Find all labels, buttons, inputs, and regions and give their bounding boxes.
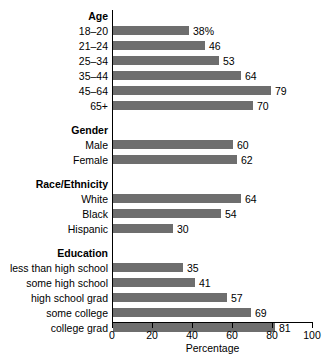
group-header-label: Age bbox=[0, 10, 108, 22]
bar-row: Hispanic30 bbox=[0, 223, 331, 238]
bar bbox=[113, 209, 221, 218]
bar-row: White64 bbox=[0, 193, 331, 208]
x-axis-tick-label: 100 bbox=[292, 329, 331, 342]
bar bbox=[113, 293, 227, 302]
bar-category-label: Female bbox=[0, 154, 108, 166]
bar-row: 45–6479 bbox=[0, 85, 331, 100]
group-header-label: Race/Ethnicity bbox=[0, 178, 108, 190]
x-axis-tick-mark bbox=[112, 323, 113, 328]
x-axis-tick-mark bbox=[232, 323, 233, 328]
bar-row: Male60 bbox=[0, 139, 331, 154]
bar-category-label: less than high school bbox=[0, 262, 108, 274]
bar-category-label: Male bbox=[0, 139, 108, 151]
bar-value-label: 30 bbox=[177, 223, 189, 235]
x-axis-tick-label: 80 bbox=[252, 329, 292, 342]
bar bbox=[113, 101, 253, 110]
bar bbox=[113, 140, 233, 149]
bar-value-label: 64 bbox=[245, 70, 257, 82]
bar-chart: Age18–2038%21–244625–345335–446445–64796… bbox=[0, 0, 331, 358]
x-axis-tick-label: 60 bbox=[212, 329, 252, 342]
bar-category-label: Black bbox=[0, 208, 108, 220]
group-header-label: Gender bbox=[0, 124, 108, 136]
bar-value-label: 60 bbox=[237, 139, 249, 151]
group-header-row: Age bbox=[0, 10, 331, 25]
bar bbox=[113, 224, 173, 233]
plot-area: Age18–2038%21–244625–345335–446445–64796… bbox=[0, 0, 331, 358]
group-header-row: Education bbox=[0, 247, 331, 262]
x-axis-tick-mark bbox=[192, 323, 193, 328]
bar-row: some high school41 bbox=[0, 277, 331, 292]
bar bbox=[113, 56, 219, 65]
bar-row: 65+70 bbox=[0, 100, 331, 115]
bar-category-label: 45–64 bbox=[0, 85, 108, 97]
group-header-row: Race/Ethnicity bbox=[0, 178, 331, 193]
bar-row: some college69 bbox=[0, 307, 331, 322]
bar-category-label: White bbox=[0, 193, 108, 205]
bar-value-label: 35 bbox=[187, 262, 199, 274]
bar-row: 21–2446 bbox=[0, 40, 331, 55]
bar-value-label: 54 bbox=[225, 208, 237, 220]
bar-value-label: 62 bbox=[241, 154, 253, 166]
bar-row: Female62 bbox=[0, 154, 331, 169]
bar-row: less than high school35 bbox=[0, 262, 331, 277]
bar bbox=[113, 86, 271, 95]
bar bbox=[113, 278, 195, 287]
bar bbox=[113, 263, 183, 272]
bar-value-label: 69 bbox=[255, 307, 267, 319]
bar-value-label: 38% bbox=[193, 25, 214, 37]
bar bbox=[113, 194, 241, 203]
bar bbox=[113, 41, 205, 50]
bar bbox=[113, 26, 189, 35]
bar-value-label: 46 bbox=[209, 40, 221, 52]
bar-row: high school grad57 bbox=[0, 292, 331, 307]
bar-value-label: 70 bbox=[257, 100, 269, 112]
x-axis-tick-label: 40 bbox=[172, 329, 212, 342]
bar-category-label: Hispanic bbox=[0, 223, 108, 235]
x-axis-tick-label: 20 bbox=[132, 329, 172, 342]
bar-value-label: 79 bbox=[275, 85, 287, 97]
bar bbox=[113, 71, 241, 80]
bar-category-label: 35–44 bbox=[0, 70, 108, 82]
bar-category-label: 25–34 bbox=[0, 55, 108, 67]
bar-value-label: 64 bbox=[245, 193, 257, 205]
bar-category-label: 18–20 bbox=[0, 25, 108, 37]
x-axis-tick-mark bbox=[152, 323, 153, 328]
bar-category-label: 21–24 bbox=[0, 40, 108, 52]
bar-category-label: some college bbox=[0, 307, 108, 319]
bar-category-label: high school grad bbox=[0, 292, 108, 304]
bar bbox=[113, 308, 251, 317]
group-header-row: Gender bbox=[0, 124, 331, 139]
bar bbox=[113, 155, 237, 164]
group-header-label: Education bbox=[0, 247, 108, 259]
bar-row: Black54 bbox=[0, 208, 331, 223]
bar-value-label: 53 bbox=[223, 55, 235, 67]
x-axis-title: Percentage bbox=[112, 342, 313, 354]
bar-row: 25–3453 bbox=[0, 55, 331, 70]
bar-value-label: 41 bbox=[199, 277, 211, 289]
bar-category-label: 65+ bbox=[0, 100, 108, 112]
x-axis-tick-mark bbox=[272, 323, 273, 328]
bar-row: 35–4464 bbox=[0, 70, 331, 85]
bar-row: 18–2038% bbox=[0, 25, 331, 40]
x-axis-tick-label: 0 bbox=[92, 329, 132, 342]
bar-category-label: some high school bbox=[0, 277, 108, 289]
x-axis-tick-mark bbox=[312, 323, 313, 328]
bar-value-label: 57 bbox=[231, 292, 243, 304]
